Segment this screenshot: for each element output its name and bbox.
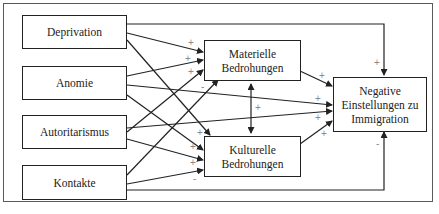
sign-label: + xyxy=(319,70,325,81)
sign-label: - xyxy=(193,173,196,184)
sign-label: - xyxy=(201,81,204,92)
node-anomie: Anomie xyxy=(22,66,127,100)
edge-deprivation-kulturelle xyxy=(127,40,210,135)
sign-label: - xyxy=(376,138,379,149)
edge-kontakte-kulturelle xyxy=(127,170,203,184)
sign-label: + xyxy=(315,112,321,123)
node-negative-einstellungen: Negative Einstellungen zu Immigration xyxy=(333,77,427,132)
node-autoritarismus: Autoritarismus xyxy=(22,115,127,149)
sign-label: + xyxy=(190,141,196,152)
sign-label: + xyxy=(255,102,261,113)
node-materielle-bedrohungen: Materielle Bedrohungen xyxy=(204,40,301,81)
sign-label: + xyxy=(315,93,321,104)
edge-kulturelle-outcome xyxy=(300,121,332,144)
sign-label: + xyxy=(188,66,194,77)
sign-label: + xyxy=(321,128,327,139)
node-kontakte: Kontakte xyxy=(22,165,127,200)
edge-autoritarismus-outcome xyxy=(127,111,332,128)
sign-label: + xyxy=(185,53,191,64)
sign-label: + xyxy=(197,127,203,138)
path-diagram: + + + - + + + - + + + + + + - Deprivatio… xyxy=(0,0,439,214)
sign-label: + xyxy=(374,57,380,68)
edge-materielle-outcome xyxy=(300,71,332,86)
sign-label: + xyxy=(190,157,196,168)
sign-label: + xyxy=(188,37,194,48)
node-kulturelle-bedrohungen: Kulturelle Bedrohungen xyxy=(204,136,301,177)
node-deprivation: Deprivation xyxy=(22,15,127,49)
edge-anomie-outcome xyxy=(127,85,332,105)
